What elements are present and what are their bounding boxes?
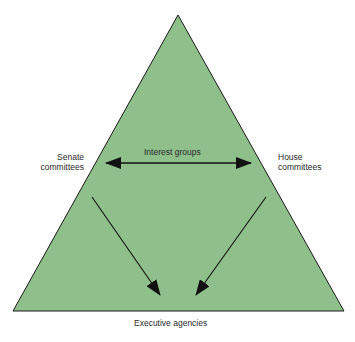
senate-label-line1: Senate <box>50 152 84 162</box>
house-committees-label: House committees <box>278 152 321 172</box>
senate-label-line2: committees <box>40 162 84 172</box>
house-label-line1: House <box>278 152 321 162</box>
interest-groups-label: Interest groups <box>144 147 201 157</box>
executive-agencies-label: Executive agencies <box>134 318 207 328</box>
house-label-line2: committees <box>278 162 321 172</box>
senate-committees-label: Senate committees <box>50 152 84 172</box>
